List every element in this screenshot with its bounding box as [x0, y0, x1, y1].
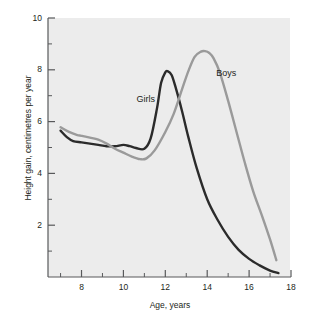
x-tick-label: 18: [279, 282, 303, 292]
series-line-boys: [61, 51, 277, 260]
x-tick-label: 8: [70, 282, 94, 292]
x-axis-title: Age, years: [110, 300, 230, 310]
y-axis-title: Height gain, centimetres per year: [23, 58, 33, 218]
chart-canvas: [0, 0, 313, 320]
x-tick-label: 10: [111, 282, 135, 292]
series-label-girls: Girls: [137, 94, 156, 104]
series-label-boys: Boys: [216, 68, 236, 78]
x-tick-label: 14: [195, 282, 219, 292]
axis-ticks: [48, 18, 291, 277]
data-series: [61, 51, 279, 273]
y-tick-label: 2: [20, 220, 42, 230]
growth-velocity-chart: 246810 81012141618 GirlsBoys Height gain…: [0, 0, 313, 320]
axes: [48, 18, 291, 277]
series-line-girls: [61, 71, 279, 273]
x-tick-label: 12: [153, 282, 177, 292]
y-tick-label: 10: [20, 13, 42, 23]
x-tick-label: 16: [237, 282, 261, 292]
